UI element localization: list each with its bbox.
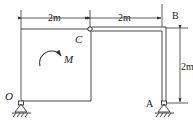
dim-label-right: 2m: [181, 61, 193, 72]
label-a: A: [146, 98, 154, 109]
label-o: O: [5, 90, 13, 102]
dim-label-top-left: 2m: [48, 12, 61, 23]
dim-label-top-right: 2m: [118, 12, 131, 23]
label-m: M: [63, 53, 74, 65]
hinge-c-icon: [88, 27, 92, 31]
frame-diagram: 2m 2m 2m C B A O M: [0, 0, 193, 126]
moment-arrow-icon: [40, 51, 61, 66]
pin-support-o-icon: [12, 101, 31, 117]
label-c: C: [75, 33, 83, 45]
label-b: B: [172, 10, 179, 21]
frame-cba: [92, 27, 166, 103]
